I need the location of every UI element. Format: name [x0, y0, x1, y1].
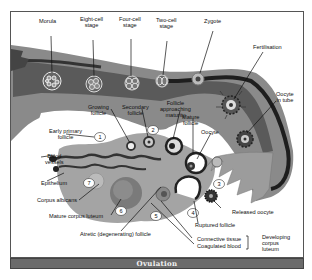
stage-number-3: 3: [216, 181, 222, 187]
label-fertilisation: Fertilisation: [253, 44, 282, 50]
label-coagulated-blood: Coagulated blood: [197, 243, 241, 249]
label-released-oocyte: Released oocyte: [232, 209, 274, 215]
label-epithelium: Epithelium: [41, 180, 67, 186]
label-secondary-follicle: Secondary follicle: [122, 104, 149, 116]
stage-3-follicle: [212, 157, 222, 167]
label-oocyte-in-tube: Oocyte in tube: [276, 91, 294, 103]
stage-number-5: 5: [153, 213, 159, 219]
caption-title: Ovulation: [11, 259, 303, 269]
label-blood-vessels: Blood vessels: [45, 153, 64, 165]
label-two-cell-stage: Two-cell stage: [156, 17, 177, 29]
label-ruptured-follicle: Ruptured follicle: [195, 222, 235, 228]
morula-cell: [43, 72, 61, 90]
caption-bar: Ovulation: [10, 258, 304, 269]
label-zygote: Zygote: [204, 18, 221, 24]
oocyte-in-tube: [237, 131, 253, 147]
two-cell-stage: [156, 75, 168, 87]
label-early-primary-follicle: Early primary follicle: [49, 128, 82, 140]
stage-number-4: 4: [190, 210, 196, 216]
stage-number-1: 1: [97, 134, 103, 140]
label-mature-follicle: Mature follicle: [182, 114, 199, 126]
four-cell-stage: [125, 76, 139, 90]
stage-number-2: 2: [150, 127, 156, 133]
stage-number-6: 6: [118, 208, 124, 214]
stage-number-7: 7: [86, 180, 92, 186]
label-growing-follicle: Growing follicle: [88, 104, 109, 116]
released-oocyte-cell: [205, 190, 217, 202]
secondary-follicle: [144, 137, 154, 147]
zygote-cell: [192, 73, 204, 85]
label-oocyte: Oocyte: [201, 129, 219, 135]
eight-cell-stage: [86, 76, 102, 92]
label-atretic-follicle: Atretic (degenerating) follicle: [80, 231, 151, 237]
corpus-luteum: [110, 177, 142, 209]
growing-follicle: [127, 142, 135, 150]
diagram-frame: Morula Eight-cell stage Four-cell stage …: [10, 11, 304, 258]
label-four-cell-stage: Four-cell stage: [119, 16, 141, 28]
label-developing-corpus-luteum: Developing corpus luteum: [262, 234, 290, 253]
label-connective-tissue: Connective tissue: [197, 236, 241, 242]
follicle-approaching: [166, 138, 182, 154]
atretic-follicle-cell: [156, 187, 170, 201]
label-corpus-albicans: Corpus albicans: [37, 197, 77, 203]
label-mature-corpus-luteum: Mature corpus luteum: [49, 213, 103, 219]
label-morula: Morula: [39, 18, 56, 24]
mature-follicle: [186, 153, 206, 173]
label-eight-cell-stage: Eight-cell stage: [80, 16, 103, 28]
